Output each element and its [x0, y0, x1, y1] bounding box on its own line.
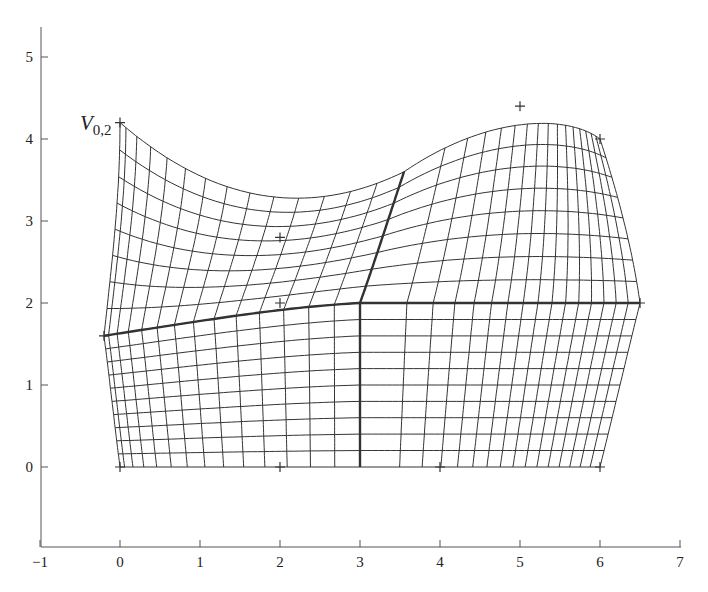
grid-line-top-right [404, 123, 600, 171]
y-tick-label: 4 [26, 131, 34, 147]
y-tick-label: 1 [26, 377, 34, 393]
patch-boundary-line [360, 172, 404, 303]
control-point-markers [99, 101, 645, 472]
grid-line-top-right [566, 125, 569, 303]
control-point-plus-icon [515, 101, 525, 111]
grid-line-top-right [552, 124, 558, 303]
control-point-plus-icon [275, 462, 285, 472]
grid-line-top-right [508, 124, 528, 303]
grid-line-top-right [538, 124, 548, 304]
x-tick-label: 4 [436, 554, 444, 570]
grid-line-top-right [600, 139, 640, 303]
grid-line-top-right [407, 148, 445, 303]
grid-line-top-left [334, 183, 377, 304]
grid-line-top-left [142, 158, 167, 330]
y-tick-label: 0 [26, 459, 34, 475]
control-point-plus-icon [595, 462, 605, 472]
grid-line-top-left [157, 169, 185, 328]
x-tick-label: 2 [276, 554, 284, 570]
grid-line-bottom-left [112, 385, 360, 401]
grid-line-top-left [120, 150, 399, 212]
x-axis: −101234567 [32, 540, 684, 570]
x-tick-label: 0 [116, 554, 124, 570]
grid-line-top-left [174, 178, 205, 324]
control-point-plus-icon [595, 134, 605, 144]
control-point-plus-icon [435, 462, 445, 472]
bicubic-grid-chart: 012345 −101234567 V0,2 [0, 0, 708, 592]
grid-line-top-right [372, 257, 633, 270]
v-0-2-label: V0,2 [80, 111, 112, 138]
x-tick-label: 5 [516, 554, 524, 570]
grid-line-top-left [119, 177, 394, 227]
grid-line-top-left [284, 196, 325, 309]
control-point-plus-icon [99, 331, 109, 341]
grid-line-top-left [109, 128, 126, 335]
grid-line-top-right [573, 127, 580, 303]
grid-line-top-left [110, 269, 372, 287]
grid-line-top-right [474, 128, 501, 303]
y-tick-label: 3 [26, 213, 34, 229]
y-tick-label: 2 [26, 295, 34, 311]
grid-line-bottom-left [106, 320, 360, 349]
x-tick-label: −1 [32, 554, 48, 570]
x-tick-label: 1 [196, 554, 204, 570]
grid-line-top-left [236, 197, 274, 316]
control-point-plus-icon [635, 298, 645, 308]
y-axis: 012345 [26, 27, 49, 547]
x-tick-label: 7 [676, 554, 684, 570]
grid-line-top-right [388, 188, 617, 219]
grid-line-top-right [394, 166, 612, 203]
control-point-plus-icon [115, 462, 125, 472]
grid-line-top-right [366, 280, 637, 286]
grid-line-top-left [120, 123, 404, 199]
x-tick-label: 6 [596, 554, 604, 570]
control-point-plus-icon [275, 298, 285, 308]
grid-line-top-left [117, 203, 388, 241]
deformed-grid-mesh [104, 123, 640, 467]
grid-line-top-right [591, 133, 616, 303]
x-tick-label: 3 [356, 554, 364, 570]
grid-line-top-left [128, 147, 151, 332]
grid-line-top-left [115, 229, 383, 255]
y-tick-label: 5 [26, 49, 34, 65]
